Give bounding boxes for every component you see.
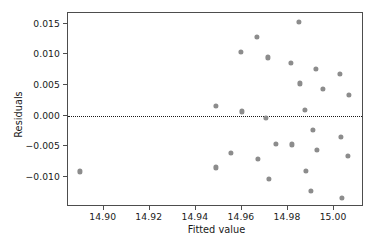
data-point [239, 109, 244, 114]
y-tick-label: 0.010 [33, 48, 60, 59]
y-tick-label: 0.015 [33, 17, 60, 28]
y-tick-label: −0.010 [25, 170, 60, 181]
y-tick-mark [63, 53, 67, 54]
data-point [340, 195, 345, 200]
x-tick-mark [103, 206, 104, 210]
data-point [238, 49, 243, 54]
data-point [313, 66, 318, 71]
y-axis-label: Residuals [13, 75, 24, 155]
x-axis-label-text: Fitted value [188, 224, 245, 235]
data-point [255, 156, 260, 161]
data-point [213, 103, 218, 108]
data-point [314, 148, 319, 153]
x-tick-label: 14.98 [274, 211, 301, 222]
y-tick-mark [63, 84, 67, 85]
x-tick-mark [195, 206, 196, 210]
data-point [265, 55, 270, 60]
data-point [288, 61, 293, 66]
data-point [303, 168, 308, 173]
data-point [289, 142, 294, 147]
x-tick-mark [287, 206, 288, 210]
data-point [254, 34, 259, 39]
data-point [273, 142, 278, 147]
data-point [346, 92, 351, 97]
zero-reference-line [68, 116, 362, 117]
data-point [320, 86, 325, 91]
data-point [213, 165, 218, 170]
y-tick-mark [63, 115, 67, 116]
data-point [296, 20, 301, 25]
data-point [346, 153, 351, 158]
y-tick-mark [63, 176, 67, 177]
y-tick-mark [63, 145, 67, 146]
y-tick-label: −0.005 [25, 140, 60, 151]
x-tick-mark [333, 206, 334, 210]
x-tick-label: 14.90 [89, 211, 116, 222]
y-tick-label: 0.000 [33, 109, 60, 120]
residual-scatter-figure: 14.9014.9214.9414.9614.9815.00 0.0150.01… [0, 0, 383, 242]
x-tick-label: 15.00 [320, 211, 347, 222]
x-tick-label: 14.92 [135, 211, 162, 222]
plot-area [67, 12, 363, 206]
data-point [338, 134, 343, 139]
x-tick-mark [241, 206, 242, 210]
data-point [77, 169, 82, 174]
x-tick-mark [149, 206, 150, 210]
x-tick-label: 14.94 [181, 211, 208, 222]
y-tick-label: 0.005 [33, 79, 60, 90]
x-tick-label: 14.96 [228, 211, 255, 222]
x-axis-label: Fitted value [0, 224, 383, 235]
data-point [308, 188, 313, 193]
y-tick-mark [63, 23, 67, 24]
data-point [297, 81, 302, 86]
data-point [337, 72, 342, 77]
data-point [228, 150, 233, 155]
data-point [302, 107, 307, 112]
data-point [266, 176, 271, 181]
data-point [310, 127, 315, 132]
